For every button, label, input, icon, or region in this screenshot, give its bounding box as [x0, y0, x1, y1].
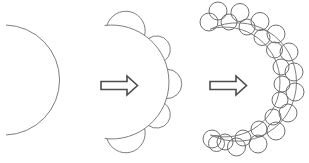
- bubble-circle: [203, 130, 221, 148]
- bubble-circle: [228, 138, 246, 156]
- process-diagram-svg: [0, 0, 309, 163]
- stage3-bubble-chain-crescent: [200, 2, 304, 156]
- right-arrow-icon: [210, 76, 247, 95]
- smooth-arc-path: [6, 25, 59, 135]
- process-diagram: [0, 0, 309, 163]
- bubble-circle: [251, 13, 269, 31]
- right-arrow-polygon: [101, 76, 138, 95]
- right-arrow-polygon: [210, 76, 247, 95]
- bubble-circle: [209, 2, 227, 20]
- right-arrow-icon: [101, 76, 138, 95]
- scallop-bump-path: [149, 36, 171, 61]
- bubble-circle: [274, 76, 290, 92]
- bubble-circle: [200, 13, 218, 31]
- bubble-circle: [286, 83, 304, 101]
- scallop-bump-path: [149, 103, 171, 128]
- stage1-smooth-circle-outline: [6, 25, 59, 135]
- bubble-circle: [272, 92, 288, 108]
